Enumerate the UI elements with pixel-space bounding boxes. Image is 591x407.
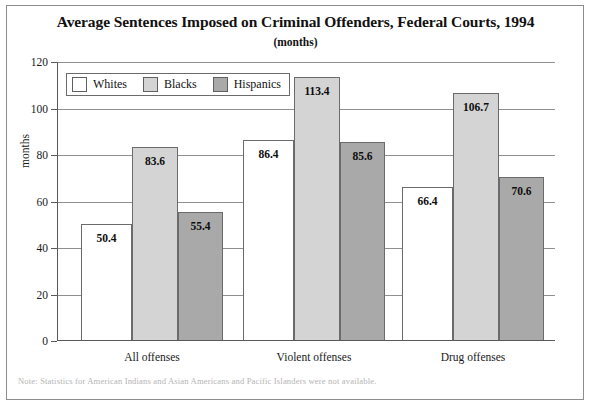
chart-legend: WhitesBlacksHispanics xyxy=(66,73,290,96)
plot-area: 50.483.655.486.4113.485.666.4106.770.6 1… xyxy=(57,62,555,341)
y-axis-tick-mark xyxy=(51,155,57,156)
axis-lines xyxy=(57,62,555,341)
legend-label-hispanics: Hispanics xyxy=(234,77,281,92)
legend-item-hispanics: Hispanics xyxy=(213,77,281,92)
x-axis-label-1: All offenses xyxy=(72,351,232,363)
y-axis-tick-mark xyxy=(51,248,57,249)
y-axis-tick-mark xyxy=(51,109,57,110)
y-axis-tick-label: 80 xyxy=(37,149,49,161)
y-axis-tick-label: 100 xyxy=(31,103,48,115)
x-axis-label-3: Drug offenses xyxy=(393,351,553,363)
white-swatch xyxy=(72,77,87,92)
y-axis-tick-label: 0 xyxy=(42,335,48,347)
y-axis-tick-label: 20 xyxy=(37,289,49,301)
chart-title: Average Sentences Imposed on Criminal Of… xyxy=(0,13,591,31)
y-axis-tick-label: 120 xyxy=(31,56,48,68)
legend-item-blacks: Blacks xyxy=(143,77,197,92)
dark-gray-swatch xyxy=(213,77,228,92)
light-gray-swatch xyxy=(143,77,158,92)
legend-item-whites: Whites xyxy=(72,77,127,92)
chart-page: Average Sentences Imposed on Criminal Of… xyxy=(0,0,591,407)
y-axis-tick-label: 40 xyxy=(37,242,49,254)
y-axis-tick-mark xyxy=(51,295,57,296)
y-axis-tick-mark xyxy=(51,202,57,203)
chart-footnote: Note: Statistics for American Indians an… xyxy=(18,376,377,386)
legend-label-whites: Whites xyxy=(93,77,127,92)
chart-subtitle: (months) xyxy=(0,36,591,48)
legend-label-blacks: Blacks xyxy=(164,77,197,92)
y-axis-tick-mark xyxy=(51,341,57,342)
y-axis-tick-label: 60 xyxy=(37,196,49,208)
x-axis-label-2: Violent offenses xyxy=(234,351,394,363)
y-axis-tick-mark xyxy=(51,62,57,63)
y-axis-title: months xyxy=(19,134,31,168)
